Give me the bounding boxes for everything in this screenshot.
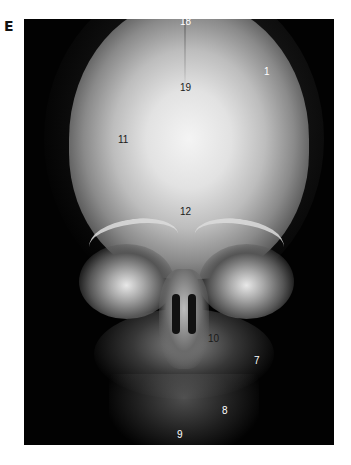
label-12: 12 — [180, 207, 191, 217]
right-orbital-roof — [191, 213, 286, 268]
label-1: 1 — [264, 67, 270, 77]
nasal-cavity — [159, 269, 209, 369]
label-9: 9 — [177, 430, 183, 440]
right-nasal-passage — [188, 294, 196, 334]
left-nasal-passage — [172, 294, 180, 334]
label-18: 18 — [180, 19, 191, 27]
label-10: 10 — [208, 334, 219, 344]
label-19: 19 — [180, 83, 191, 93]
label-7: 7 — [254, 356, 260, 366]
label-8: 8 — [222, 406, 228, 416]
cranial-vault — [69, 19, 309, 279]
skull-radiograph: 18 1 19 11 12 10 7 8 9 — [24, 19, 334, 445]
cranial-glow — [44, 19, 324, 299]
sagittal-suture — [184, 19, 186, 89]
left-orbital-roof — [86, 213, 181, 268]
mandible — [109, 374, 259, 445]
label-11: 11 — [118, 135, 128, 145]
maxilla — [94, 309, 274, 399]
panel-letter: E — [4, 18, 14, 34]
left-orbit — [79, 244, 174, 319]
right-orbit — [199, 244, 294, 319]
